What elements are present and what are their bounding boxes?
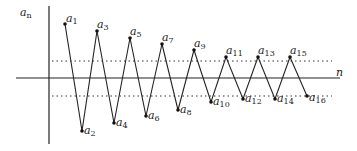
label-a1: a1: [66, 12, 78, 26]
label-a11: a11: [226, 44, 243, 58]
label-a3: a3: [97, 18, 109, 32]
label-a6: a6: [148, 109, 160, 123]
x-axis-label: n: [336, 66, 343, 79]
label-a15: a15: [290, 44, 307, 58]
label-a16: a16: [309, 91, 326, 105]
diagram-canvas: a1a2a3a4a5a6a7a8a9a10a11a12a13a14a15a16 …: [0, 0, 357, 151]
label-a12: a12: [245, 92, 262, 106]
label-a13: a13: [258, 44, 275, 58]
y-axis-label: an: [20, 6, 32, 20]
label-a8: a8: [180, 103, 192, 117]
label-a9: a9: [194, 37, 206, 51]
label-a5: a5: [130, 25, 142, 39]
oscillating-sequence-diagram: a1a2a3a4a5a6a7a8a9a10a11a12a13a14a15a16 …: [0, 0, 357, 151]
label-a2: a2: [84, 124, 96, 138]
label-a10: a10: [213, 95, 230, 109]
label-a14: a14: [277, 92, 294, 106]
label-a4: a4: [116, 116, 128, 130]
label-a7: a7: [162, 31, 174, 45]
